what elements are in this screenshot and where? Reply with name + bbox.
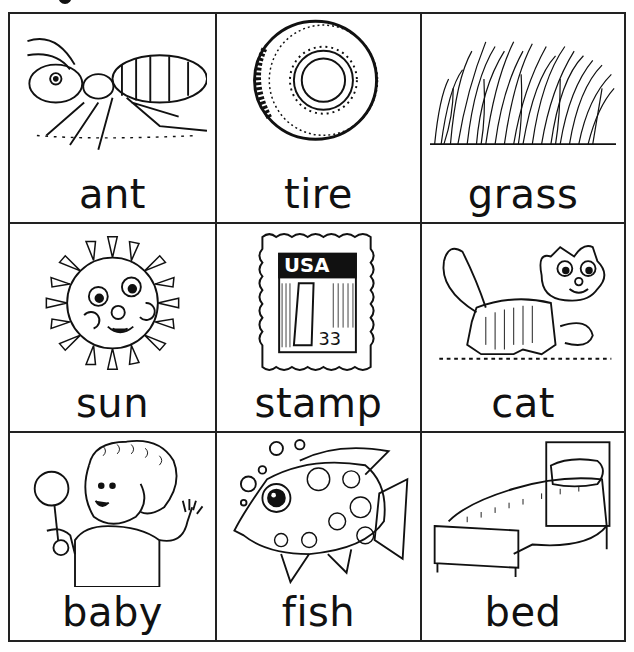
word-label: tire	[217, 172, 420, 216]
sun-icon	[18, 228, 207, 378]
cell-tire: tire	[217, 14, 422, 224]
word-label: grass	[422, 172, 624, 216]
stamp-icon: USA 33	[225, 228, 412, 378]
word-label: bed	[422, 590, 624, 634]
word-label: stamp	[217, 381, 420, 425]
cell-sun: sun	[10, 224, 217, 433]
cell-fish: fish	[217, 433, 422, 640]
grass-icon	[430, 18, 616, 168]
heading-partial-glyph	[58, 0, 72, 4]
baby-icon	[18, 437, 207, 587]
stamp-value-text: 33	[319, 329, 342, 349]
cat-icon	[430, 228, 616, 378]
word-label: ant	[10, 172, 215, 216]
bed-icon	[430, 437, 616, 587]
cell-cat: cat	[422, 224, 624, 433]
cell-stamp: USA 33 stamp	[217, 224, 422, 433]
tire-icon	[225, 18, 412, 168]
cell-grass: grass	[422, 14, 624, 224]
cell-bed: bed	[422, 433, 624, 640]
word-label: cat	[422, 381, 624, 425]
cell-baby: baby	[10, 433, 217, 640]
picture-word-grid: ant tire	[8, 12, 626, 642]
stamp-usa-text: USA	[284, 254, 330, 277]
fish-icon	[225, 437, 412, 587]
ant-icon	[18, 18, 207, 168]
word-label: sun	[10, 381, 215, 425]
word-label: baby	[10, 590, 215, 634]
word-label: fish	[217, 590, 420, 634]
cell-ant: ant	[10, 14, 217, 224]
